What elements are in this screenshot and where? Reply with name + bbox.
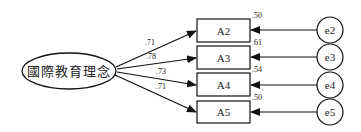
svg-text:e5: e5 bbox=[325, 106, 336, 118]
svg-text:e3: e3 bbox=[325, 51, 336, 63]
indicator-A4: A4 bbox=[197, 73, 250, 96]
indicator-A3: A3 bbox=[197, 46, 250, 69]
latent-label: 國際教育理念 bbox=[27, 64, 111, 79]
path-A5 bbox=[115, 75, 196, 112]
svg-text:e4: e4 bbox=[325, 79, 336, 91]
r2-A3: .61 bbox=[252, 38, 262, 47]
r2-A2: .50 bbox=[252, 11, 262, 20]
error-e5: e5 bbox=[317, 99, 343, 125]
r2-A4: .54 bbox=[252, 65, 262, 74]
error-e3: e3 bbox=[317, 44, 343, 70]
loading-A2: .71 bbox=[145, 38, 155, 47]
svg-text:A5: A5 bbox=[217, 106, 231, 118]
indicator-A5: A5 bbox=[197, 101, 250, 123]
svg-text:A2: A2 bbox=[217, 25, 230, 37]
r2-A5: .50 bbox=[252, 93, 262, 102]
indicator-A2: A2 bbox=[197, 19, 250, 42]
path-A2 bbox=[116, 31, 196, 67]
loading-A3: .78 bbox=[146, 52, 156, 61]
loading-A4: .73 bbox=[156, 67, 166, 76]
svg-text:A4: A4 bbox=[217, 79, 231, 91]
sem-diagram: 國際教育理念 .71 .78 .73 .71 A2 A3 A4 A5 .50 .… bbox=[0, 0, 361, 132]
svg-text:A3: A3 bbox=[217, 52, 231, 64]
error-e4: e4 bbox=[317, 72, 343, 98]
svg-text:e2: e2 bbox=[325, 24, 335, 36]
error-e2: e2 bbox=[317, 17, 343, 43]
latent-factor: 國際教育理念 bbox=[22, 53, 116, 89]
loading-A5: .71 bbox=[156, 82, 166, 91]
